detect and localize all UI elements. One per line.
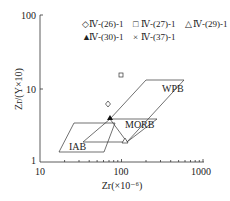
legend: ◇ Ⅳ-(26)-1 □ Ⅳ-(27)-1 △ Ⅳ-(29)-1 ▲ Ⅳ-(30… (82, 19, 227, 42)
legend-symbol-cross: × (133, 32, 138, 42)
legend-label-iv-30-1: Ⅳ-(30)-1 (89, 32, 123, 42)
legend-label-iv-37-1: Ⅳ-(37)-1 (141, 32, 175, 42)
x-tick-10: 10 (35, 166, 45, 177)
legend-symbol-diamond: ◇ (82, 19, 89, 29)
x-tick-100: 100 (114, 166, 129, 177)
data-points (106, 73, 129, 143)
legend-symbol-square: □ (133, 19, 139, 29)
field-label-iab: IAB (69, 141, 87, 152)
legend-label-iv-27-1: Ⅳ-(27)-1 (141, 19, 175, 29)
y-tick-100: 100 (21, 10, 36, 21)
x-axis-title: Zr(×10⁻⁶) (102, 180, 143, 192)
legend-label-iv-29-1: Ⅳ-(29)-1 (193, 19, 227, 29)
point-iv-26-1-diamond (106, 101, 111, 107)
point-iv-29-1-open-triangle (122, 138, 128, 143)
field-iab (59, 123, 115, 152)
y-axis (40, 15, 43, 162)
point-iv-27-1-square (119, 73, 123, 77)
field-label-wpb: WPB (162, 83, 184, 94)
legend-symbol-open-triangle: △ (185, 19, 192, 29)
x-axis (40, 159, 204, 162)
field-label-morb: MORB (125, 119, 155, 130)
legend-label-iv-26-1: Ⅳ-(26)-1 (89, 19, 123, 29)
point-iv-30-1-filled-triangle (107, 115, 113, 120)
y-tick-10: 10 (26, 84, 36, 95)
chart-canvas: 100 10 1 10 100 1000 Zr(×10⁻⁶) Zr/(Y×10)… (0, 0, 230, 201)
y-tick-1: 1 (31, 155, 36, 166)
x-tick-1000: 1000 (191, 166, 211, 177)
y-axis-title: Zr/(Y×10) (13, 68, 25, 110)
